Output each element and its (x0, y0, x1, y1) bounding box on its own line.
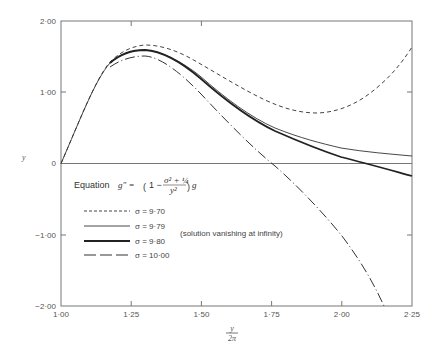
series-sigma-980 (110, 50, 412, 176)
legend-label: σ = 10·00 (135, 251, 170, 260)
x-tick-label: 1·50 (193, 310, 210, 319)
svg-text:y²: y² (169, 185, 177, 195)
svg-text:2π: 2π (228, 334, 237, 343)
chart: 2·00 1·00 0 −1·00 −2·00 y 1·00 1·25 1·50… (0, 0, 441, 363)
svg-text:): ) (187, 182, 190, 192)
note-label: (solution vanishing at infinity) (180, 229, 283, 238)
svg-text:(: ( (143, 182, 146, 192)
svg-text:g: g (192, 180, 197, 190)
y-tick-label: 0 (52, 159, 57, 168)
svg-text:g″ =: g″ = (118, 180, 135, 190)
legend-label: σ = 9·70 (135, 207, 166, 216)
y-tick-label: 2·00 (40, 17, 57, 26)
svg-text:1 −: 1 − (149, 180, 162, 190)
legend: σ = 9·70 σ = 9·79 σ = 9·80 σ = 10·00 (so… (84, 207, 283, 260)
curves (61, 45, 412, 306)
legend-label: σ = 9·79 (135, 222, 166, 231)
x-axis-label: y 2π (226, 324, 238, 343)
x-tick-label: 2·25 (404, 310, 421, 319)
svg-text:σ² + ¼: σ² + ¼ (164, 175, 189, 185)
equation-prefix: Equation (74, 180, 110, 190)
y-axis-label: y (21, 153, 26, 162)
x-tick-label: 2·00 (334, 310, 351, 319)
equation-annotation: Equation g″ = ( 1 − σ² + ¼ y² ) g (74, 175, 197, 195)
x-tick-label: 1·75 (264, 310, 281, 319)
svg-text:y: y (229, 324, 234, 333)
legend-label: σ = 9·80 (135, 237, 166, 246)
series-sigma-970 (61, 45, 412, 164)
y-tick-label: 1·00 (40, 88, 57, 97)
x-tick-label: 1·25 (123, 310, 140, 319)
y-tick-label: −1·00 (35, 231, 56, 240)
x-tick-label: 1·00 (53, 310, 70, 319)
